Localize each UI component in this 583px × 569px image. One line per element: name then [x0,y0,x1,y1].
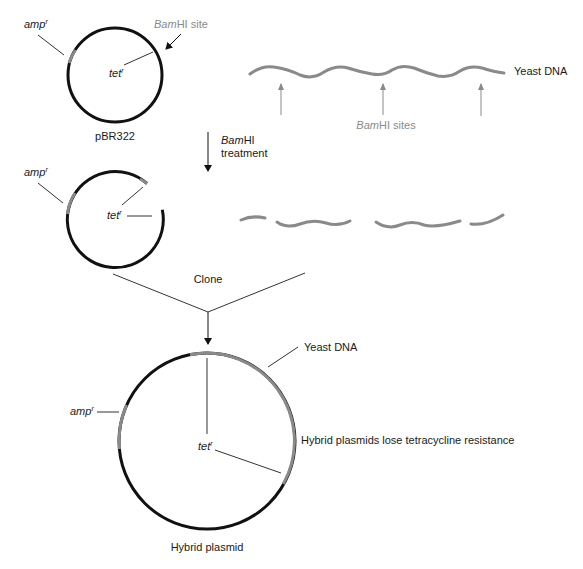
hybrid-yeast-insert [190,353,294,484]
bamhi-treatment-step: BamHI treatment [208,132,267,171]
cut-amp-region-segment [68,193,76,214]
yeast-fragment-4 [471,215,503,224]
plasmid-name: pBR322 [95,130,135,142]
tet-pointer-line [124,52,153,65]
cut-plasmid: ampr tetr [24,166,163,268]
tet-label: tetr [109,67,124,79]
cut-amp-pointer-line [38,183,63,203]
yeast-dna-strand [250,66,504,77]
clone-line-right [208,273,305,312]
cloning-diagram: ampr tetr BamHI site pBR322 Yeast DNA Ba… [0,0,583,569]
cut-end-segment [140,179,147,184]
yeast-fragment-1 [241,217,265,220]
yeast-fragment-2 [277,221,350,226]
bamhi-site-arrow [166,34,181,49]
amp-pointer-line [38,35,64,55]
pbr322-plasmid: ampr tetr BamHI site pBR322 [24,18,208,142]
treatment-label-line1: BamHI [221,134,255,146]
yeast-fragment-3 [376,221,460,227]
clone-step: Clone [113,273,305,344]
cut-amp-label: ampr [24,166,48,178]
bamhi-sites-label: BamHI sites [356,119,416,131]
hybrid-amp-label: ampr [70,405,94,417]
cut-tet-pointer-line-upper [122,187,143,205]
hybrid-yeast-label: Yeast DNA [304,341,358,353]
hybrid-yeast-pointer-line [268,347,298,367]
cut-tet-label: tetr [107,209,122,221]
hybrid-amp-segment [119,405,126,449]
hybrid-note: Hybrid plasmids lose tetracycline resist… [301,434,514,446]
hybrid-plasmid: tetr ampr Yeast DNA Hybrid plasmids lose… [70,341,514,553]
hybrid-plasmid-name: Hybrid plasmid [171,541,244,553]
bamhi-site-label: BamHI site [154,18,208,30]
yeast-dna-label: Yeast DNA [514,65,568,77]
hybrid-tet-label: tetr [198,440,213,452]
amp-label: ampr [24,18,48,30]
clone-label: Clone [194,273,223,285]
treatment-label-line2: treatment [221,147,267,159]
yeast-dna: Yeast DNA BamHI sites [250,65,568,131]
yeast-fragments [241,215,503,227]
hybrid-tet-line-right [215,450,281,473]
amp-region-segment [69,50,76,63]
